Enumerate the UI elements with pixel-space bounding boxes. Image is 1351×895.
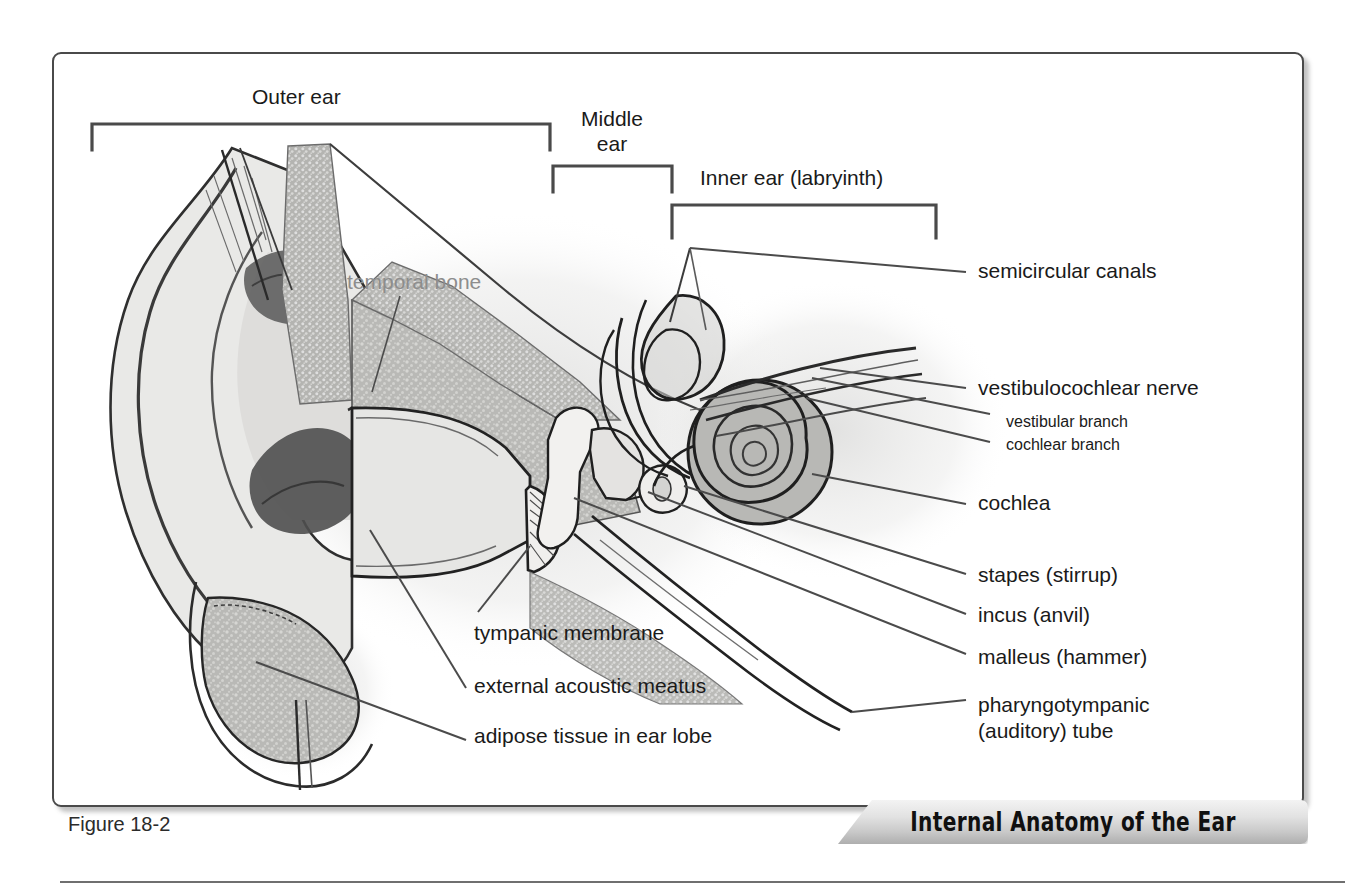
bracket-label-outer-ear: Outer ear <box>252 84 341 109</box>
label-tympanic-membrane: tympanic membrane <box>474 620 664 645</box>
pharyngotympanic-line2: (auditory) tube <box>978 719 1113 742</box>
middle-ear-line1: Middle <box>581 107 643 130</box>
label-vestibular-branch: vestibular branch <box>1006 412 1128 431</box>
label-stapes: stapes (stirrup) <box>978 562 1118 587</box>
label-vestibulocochlear-nerve: vestibulocochlear nerve <box>978 375 1199 400</box>
pharyngotympanic-line1: pharyngotympanic <box>978 693 1150 716</box>
label-external-acoustic-meatus: external acoustic meatus <box>474 673 706 698</box>
label-cochlea: cochlea <box>978 490 1050 515</box>
label-pharyngotympanic-tube: pharyngotympanic (auditory) tube <box>978 692 1150 744</box>
label-adipose-tissue: adipose tissue in ear lobe <box>474 723 712 748</box>
bracket-label-inner-ear: Inner ear (labryinth) <box>700 165 883 190</box>
label-temporal-bone: temporal bone <box>347 269 481 294</box>
middle-ear-line2: ear <box>597 132 627 155</box>
bracket-label-middle-ear: Middle ear <box>556 106 668 156</box>
title-banner: Internal Anatomy of the Ear <box>838 800 1308 844</box>
figure-caption: Figure 18-2 <box>68 813 170 836</box>
label-cochlear-branch: cochlear branch <box>1006 435 1120 454</box>
banner-title-text: Internal Anatomy of the Ear <box>871 800 1275 844</box>
label-malleus: malleus (hammer) <box>978 644 1147 669</box>
label-incus: incus (anvil) <box>978 602 1090 627</box>
label-semicircular-canals: semicircular canals <box>978 258 1157 283</box>
bottom-divider-rule <box>60 881 1345 883</box>
